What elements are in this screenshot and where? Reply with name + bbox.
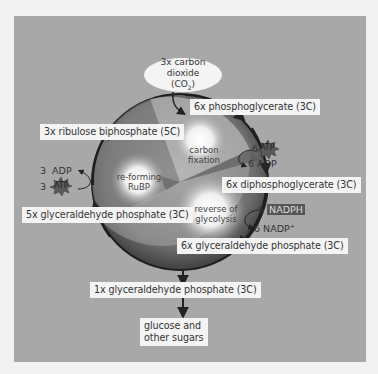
right-adp: 6 ADP: [248, 158, 277, 169]
stage-carbon-fixation: carbonfixation: [182, 145, 226, 165]
nadph-box: NADPH: [267, 204, 305, 215]
label-phosphoglycerate: 6x phosphoglycerate (3C): [190, 99, 320, 115]
co2-line2: (CO2): [171, 79, 195, 93]
stage-reverse-glycolysis: reverse ofglycolysis: [192, 204, 240, 224]
right-nadp: 6 NADP+: [254, 222, 295, 234]
left-atp-label: ATP: [54, 181, 69, 190]
right-nadph: 6 NADPH: [258, 204, 305, 215]
stage-reforming-rubp: re-formingRuBP: [115, 172, 163, 192]
label-ribulose-biphosphate: 3x ribulose biphosphate (5C): [40, 124, 184, 140]
label-diphosphoglycerate: 6x diphosphoglycerate (3C): [222, 177, 361, 193]
right-atp-count: 6: [252, 143, 258, 154]
label-g3p-1x: 1x glyceraldehyde phosphate (3C): [90, 282, 261, 298]
right-atp-label: ATP: [260, 143, 275, 152]
left-atp-count: 3: [40, 181, 46, 192]
label-g3p-6x: 6x glyceraldehyde phosphate (3C): [177, 238, 348, 254]
co2-line1: 3x carbon dioxide: [144, 57, 222, 79]
left-adp: 3 ADP: [40, 165, 72, 176]
label-glucose-output: glucose andother sugars: [140, 318, 208, 346]
co2-input-bubble: 3x carbon dioxide (CO2): [144, 58, 222, 92]
label-g3p-5x: 5x glyceraldehyde phosphate (3C): [22, 207, 193, 223]
